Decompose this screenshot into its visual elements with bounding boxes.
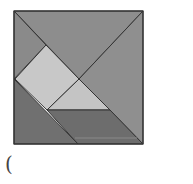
option-label: (	[5, 152, 13, 176]
tangram-diagram	[0, 0, 193, 184]
